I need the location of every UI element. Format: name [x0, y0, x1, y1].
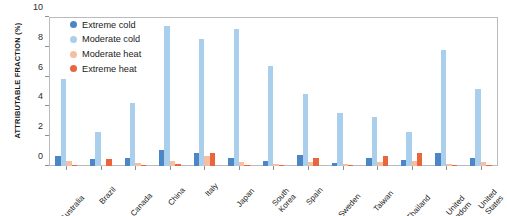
bar-group	[325, 17, 360, 166]
x-axis-label: Canada	[130, 192, 155, 216]
bar	[441, 50, 446, 166]
bar	[199, 39, 204, 166]
x-axis-label: Japan	[236, 187, 257, 209]
bar	[234, 29, 239, 166]
legend-item[interactable]: Extreme cold	[70, 18, 141, 32]
x-axis-label: UnitedStates	[477, 188, 505, 216]
bar-group	[256, 17, 291, 166]
x-tick-mark	[412, 166, 413, 170]
bar-set	[394, 17, 429, 166]
legend-swatch-icon	[70, 65, 77, 72]
chart-legend: Extreme coldModerate coldModerate heatEx…	[70, 18, 141, 76]
bar-set	[256, 17, 291, 166]
x-tick-mark	[343, 166, 344, 170]
bar	[452, 165, 457, 166]
bar-group	[222, 17, 257, 166]
bar	[475, 89, 480, 166]
bar	[337, 113, 342, 166]
y-tick-label: 2	[38, 121, 49, 131]
x-axis-label: UnitedKingdom	[440, 194, 474, 216]
x-tick-mark	[66, 166, 67, 170]
bar	[313, 158, 318, 166]
legend-swatch-icon	[70, 51, 77, 58]
x-tick-mark	[377, 166, 378, 170]
legend-item[interactable]: Moderate heat	[70, 47, 141, 61]
y-tick-label: 4	[38, 91, 49, 101]
bar	[141, 165, 146, 166]
bar	[268, 66, 273, 166]
legend-item[interactable]: Moderate cold	[70, 33, 141, 47]
bar	[244, 165, 249, 166]
bar-group	[394, 17, 429, 166]
bar-set	[222, 17, 257, 166]
bar-set	[291, 17, 326, 166]
bar	[164, 26, 169, 166]
bar	[279, 165, 284, 166]
legend-item-label: Moderate heat	[82, 49, 141, 59]
bar-set	[187, 17, 222, 166]
bar-group	[463, 17, 498, 166]
y-tick-label: 6	[38, 62, 49, 72]
legend-swatch-icon	[70, 36, 77, 43]
bar	[417, 153, 422, 166]
x-tick-mark	[273, 166, 274, 170]
bar-set	[360, 17, 395, 166]
bar	[210, 153, 215, 166]
bar-set	[463, 17, 498, 166]
bar-group	[360, 17, 395, 166]
x-tick-mark	[101, 166, 102, 170]
y-tick-label: 10	[33, 2, 49, 12]
x-tick-mark	[204, 166, 205, 170]
x-axis-label: Sweden	[337, 192, 363, 216]
x-tick-mark	[170, 166, 171, 170]
bar-set	[429, 17, 464, 166]
x-axis-label: Australia	[60, 194, 87, 216]
bar	[72, 165, 77, 166]
x-axis-label: Thailand	[405, 194, 432, 216]
y-tick-label: 0	[38, 151, 49, 161]
y-tick-label: 8	[38, 32, 49, 42]
y-axis-title: ATTRIBUTABLE FRACTION (%)	[13, 6, 22, 156]
bar	[348, 165, 353, 166]
x-tick-mark	[135, 166, 136, 170]
x-tick-mark	[446, 166, 447, 170]
bar	[95, 132, 100, 166]
bar-group	[291, 17, 326, 166]
bar	[372, 117, 377, 166]
bar-group	[187, 17, 222, 166]
x-axis-label: China	[167, 187, 187, 208]
legend-item-label: Moderate cold	[82, 34, 140, 44]
bar	[303, 94, 308, 166]
x-axis-label: Spain	[305, 186, 325, 207]
x-axis-label: Brazil	[98, 186, 118, 207]
x-axis-label: Taiwan	[373, 190, 396, 214]
bar-set	[325, 17, 360, 166]
x-tick-mark	[308, 166, 309, 170]
x-tick-mark	[481, 166, 482, 170]
bar	[61, 79, 66, 166]
bar-group	[153, 17, 188, 166]
bar-set	[153, 17, 188, 166]
attributable-fraction-bar-chart: ATTRIBUTABLE FRACTION (%) 0246810 Austra…	[0, 0, 507, 216]
legend-swatch-icon	[70, 21, 77, 28]
bar	[106, 159, 111, 166]
legend-item[interactable]: Extreme heat	[70, 62, 141, 76]
legend-item-label: Extreme cold	[82, 20, 136, 30]
bar-group	[429, 17, 464, 166]
x-axis-label: Italy	[204, 182, 220, 199]
bar	[175, 164, 180, 166]
x-tick-mark	[239, 166, 240, 170]
x-axis-label: SouthKorea	[270, 187, 297, 214]
bar	[130, 103, 135, 166]
bar	[486, 165, 491, 166]
legend-item-label: Extreme heat	[82, 64, 137, 74]
bar	[383, 156, 388, 166]
